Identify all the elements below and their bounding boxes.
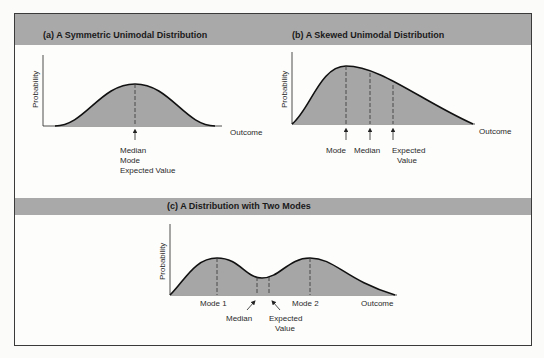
panel-b-chart: Probability Outcome Mode Median Expected… bbox=[280, 52, 512, 165]
panel-c-label-value: Value bbox=[275, 324, 295, 333]
distribution-diagrams: Probability Outcome Median Mode Expected… bbox=[0, 0, 544, 358]
panel-a-chart: Probability Outcome Median Mode Expected… bbox=[31, 55, 263, 175]
panel-b-label-mode: Mode bbox=[326, 146, 347, 155]
panel-a-xlabel: Outcome bbox=[230, 128, 263, 137]
panel-c-label-median: Median bbox=[226, 314, 252, 323]
panel-c-label-mode2: Mode 2 bbox=[292, 299, 319, 308]
panel-c-label-mode1: Mode 1 bbox=[200, 299, 227, 308]
panel-b-label-median: Median bbox=[354, 146, 380, 155]
panel-c-xlabel: Outcome bbox=[361, 299, 394, 308]
panel-a-ylabel: Probability bbox=[31, 71, 40, 108]
panel-a-label-expected: Expected Value bbox=[120, 166, 176, 175]
panel-a-label-median: Median bbox=[120, 146, 146, 155]
panel-b-label-expected: Expected bbox=[392, 146, 425, 155]
panel-c-label-expected: Expected bbox=[269, 314, 302, 323]
panel-b-ylabel: Probability bbox=[280, 71, 289, 108]
panel-b-label-value: Value bbox=[397, 156, 417, 165]
panel-a-label-mode: Mode bbox=[120, 156, 141, 165]
panel-c-ylabel: Probability bbox=[158, 243, 167, 280]
panel-c-chart: Probability Outcome Mode 1 Mode 2 Median… bbox=[158, 224, 397, 333]
panel-b-xlabel: Outcome bbox=[479, 127, 512, 136]
